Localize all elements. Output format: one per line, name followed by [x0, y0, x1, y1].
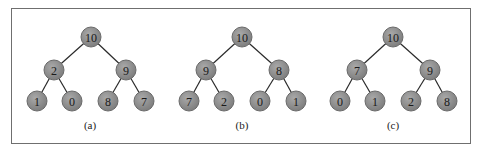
tree-node: 8	[98, 91, 118, 111]
tree-node: 2	[44, 60, 64, 80]
tree-caption: (a)	[84, 119, 97, 132]
node-value: 9	[203, 64, 209, 78]
node-value: 8	[105, 95, 111, 109]
tree-a: 10291087(a)	[27, 27, 154, 132]
node-value: 10	[85, 31, 97, 45]
tree-node: 1	[27, 91, 47, 111]
tree-node: 2	[214, 91, 234, 111]
node-value: 1	[372, 95, 378, 109]
tree-c: 10790128(c)	[330, 27, 457, 132]
node-value: 10	[236, 31, 248, 45]
node-value: 0	[257, 95, 263, 109]
tree-node: 2	[401, 91, 421, 111]
tree-node: 10	[232, 27, 252, 47]
node-value: 2	[51, 64, 57, 78]
node-value: 2	[408, 95, 414, 109]
tree-node: 8	[269, 60, 289, 80]
node-value: 0	[69, 95, 75, 109]
node-value: 2	[221, 95, 227, 109]
tree-node: 1	[286, 91, 306, 111]
node-value: 0	[337, 95, 343, 109]
tree-node: 7	[347, 60, 367, 80]
tree-node: 7	[134, 91, 154, 111]
tree-node: 9	[420, 60, 440, 80]
trees-canvas: 10291087(a)10987201(b)10790128(c)	[0, 0, 483, 153]
node-value: 7	[354, 64, 360, 78]
tree-node: 0	[250, 91, 270, 111]
node-value: 10	[387, 31, 399, 45]
tree-node: 10	[81, 27, 101, 47]
node-value: 9	[123, 64, 129, 78]
node-value: 8	[276, 64, 282, 78]
tree-caption: (c)	[387, 119, 400, 132]
tree-caption: (b)	[236, 119, 249, 132]
heap-trees-figure: 10291087(a)10987201(b)10790128(c)	[0, 0, 483, 153]
tree-node: 0	[62, 91, 82, 111]
node-value: 8	[444, 95, 450, 109]
node-value: 7	[141, 95, 147, 109]
tree-node: 9	[116, 60, 136, 80]
tree-node: 0	[330, 91, 350, 111]
tree-b: 10987201(b)	[179, 27, 306, 132]
node-value: 7	[186, 95, 192, 109]
tree-node: 8	[437, 91, 457, 111]
tree-node: 9	[196, 60, 216, 80]
node-value: 9	[427, 64, 433, 78]
tree-node: 7	[179, 91, 199, 111]
tree-node: 10	[383, 27, 403, 47]
node-value: 1	[293, 95, 299, 109]
node-value: 1	[34, 95, 40, 109]
tree-node: 1	[365, 91, 385, 111]
